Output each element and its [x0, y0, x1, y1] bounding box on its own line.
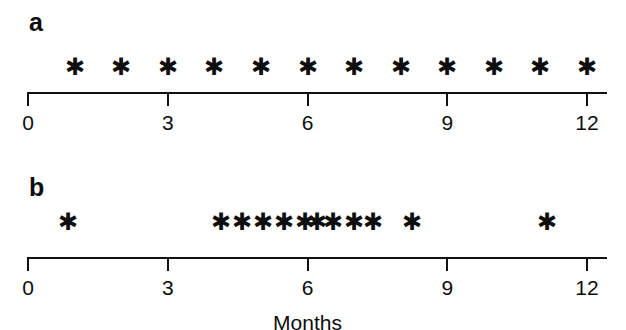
- tick-mark-6: [307, 257, 309, 271]
- tick-mark-0: [27, 257, 29, 271]
- tick-mark-6: [307, 92, 309, 106]
- tick-mark-3: [167, 92, 169, 106]
- tick-label-3: 3: [162, 277, 174, 299]
- tick-label-6: 6: [302, 112, 314, 134]
- tick-label-9: 9: [441, 277, 453, 299]
- tick-label-6: 6: [302, 277, 314, 299]
- tick-mark-0: [27, 92, 29, 106]
- tick-mark-12: [586, 92, 588, 106]
- panel-b: b ✱✱✱✱✱✱✱✱✱✱✱✱ 036912 Months: [0, 165, 626, 330]
- panel-b-axis-line: [28, 257, 607, 259]
- tick-label-9: 9: [441, 112, 453, 134]
- panel-b-axis: 036912 Months: [0, 165, 626, 330]
- panel-a-axis-line: [28, 92, 607, 94]
- panel-a: a ✱✱✱✱✱✱✱✱✱✱✱✱ 036912: [0, 0, 626, 165]
- tick-mark-12: [586, 257, 588, 271]
- tick-mark-3: [167, 257, 169, 271]
- figure-panels-a-b: a ✱✱✱✱✱✱✱✱✱✱✱✱ 036912 b ✱✱✱✱✱✱✱✱✱✱✱✱ 036…: [0, 0, 626, 330]
- tick-label-0: 0: [22, 277, 34, 299]
- tick-label-12: 12: [575, 277, 598, 299]
- tick-label-0: 0: [22, 112, 34, 134]
- x-axis-title: Months: [273, 311, 342, 330]
- tick-label-3: 3: [162, 112, 174, 134]
- tick-mark-9: [446, 257, 448, 271]
- tick-label-12: 12: [575, 112, 598, 134]
- tick-mark-9: [446, 92, 448, 106]
- panel-a-axis: 036912: [0, 0, 626, 165]
